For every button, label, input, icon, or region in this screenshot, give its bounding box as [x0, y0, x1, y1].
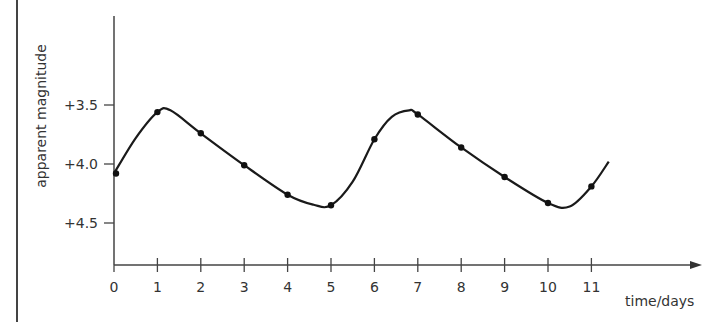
x-axis-label: time/days — [625, 293, 694, 309]
x-tick-label: 0 — [110, 279, 119, 295]
light-curve-chart: 01234567891011 +3.5+4.0+4.5 apparent mag… — [0, 0, 725, 322]
x-tick-label: 1 — [153, 279, 162, 295]
x-tick-label: 6 — [370, 279, 379, 295]
data-point — [458, 144, 464, 150]
x-axis-arrow-icon — [690, 261, 702, 269]
data-point — [501, 174, 507, 180]
y-axis-label: apparent magnitude — [33, 44, 49, 188]
x-tick-label: 11 — [582, 279, 600, 295]
data-point — [371, 136, 377, 142]
data-point — [113, 170, 119, 176]
y-tick-label: +4.5 — [64, 215, 98, 231]
x-tick-label: 8 — [457, 279, 466, 295]
y-tick-label: +3.5 — [64, 97, 98, 113]
data-point — [284, 191, 290, 197]
data-point — [588, 183, 594, 189]
data-point — [545, 200, 551, 206]
data-point — [415, 111, 421, 117]
data-point — [154, 109, 160, 115]
data-point — [198, 130, 204, 136]
x-tick-label: 5 — [327, 279, 336, 295]
x-tick-label: 9 — [500, 279, 509, 295]
x-tick-label: 3 — [240, 279, 249, 295]
y-axis-ticks: +3.5+4.0+4.5 — [64, 97, 114, 231]
data-point — [241, 162, 247, 168]
y-tick-label: +4.0 — [64, 156, 98, 172]
data-point — [328, 202, 334, 208]
x-tick-label: 4 — [283, 279, 292, 295]
x-tick-label: 10 — [539, 279, 557, 295]
x-tick-label: 7 — [413, 279, 422, 295]
x-tick-label: 2 — [196, 279, 205, 295]
data-points — [113, 109, 595, 209]
light-curve-line — [114, 108, 609, 208]
x-axis-ticks: 01234567891011 — [110, 258, 601, 295]
